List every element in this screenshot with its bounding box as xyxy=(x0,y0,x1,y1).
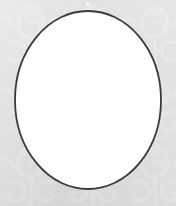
oval-frame xyxy=(15,11,161,189)
oval-layer xyxy=(0,0,176,206)
image-canvas xyxy=(0,0,176,206)
